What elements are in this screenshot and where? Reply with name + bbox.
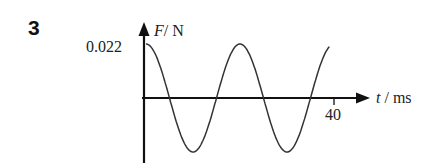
y-tick-label: 0.022 (86, 38, 122, 56)
y-axis-label: F/ N (154, 22, 184, 40)
x-axis-arrow-icon (356, 93, 370, 104)
x-tick-label: 40 (325, 106, 341, 124)
force-time-chart (0, 0, 436, 166)
y-axis-arrow-icon (139, 22, 150, 36)
x-axis-label: t / ms (376, 89, 412, 107)
